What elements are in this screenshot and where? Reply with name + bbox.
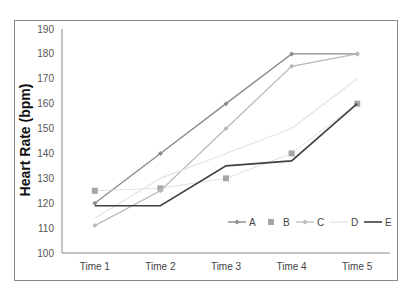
x-tick-label: Time 5 bbox=[342, 261, 373, 272]
x-tick-label: Time 4 bbox=[276, 261, 307, 272]
series-line bbox=[95, 104, 357, 206]
x-tick-label: Time 1 bbox=[80, 261, 111, 272]
diamond-marker-icon bbox=[355, 51, 360, 56]
diamond-marker-icon bbox=[235, 220, 240, 225]
series-line bbox=[95, 79, 357, 218]
legend-item-c: C bbox=[296, 217, 324, 228]
y-tick-label: 190 bbox=[37, 24, 54, 35]
square-marker-icon bbox=[223, 175, 229, 181]
series-d bbox=[95, 79, 357, 218]
square-marker-icon bbox=[268, 219, 274, 225]
legend-label: B bbox=[283, 217, 290, 228]
legend-label: E bbox=[385, 217, 392, 228]
legend-item-b: B bbox=[268, 217, 290, 228]
y-tick-label: 100 bbox=[37, 248, 54, 259]
square-marker-icon bbox=[92, 188, 98, 194]
series-e bbox=[95, 104, 357, 206]
y-tick-label: 140 bbox=[37, 148, 54, 159]
series-line bbox=[95, 54, 357, 226]
legend-item-d: D bbox=[330, 217, 358, 228]
y-tick-label: 120 bbox=[37, 198, 54, 209]
y-tick-label: 170 bbox=[37, 73, 54, 84]
y-tick-label: 110 bbox=[38, 223, 54, 234]
y-tick-label: 150 bbox=[37, 123, 54, 134]
legend-label: A bbox=[249, 217, 256, 228]
y-tick-label: 160 bbox=[37, 98, 54, 109]
series-lines bbox=[92, 51, 360, 228]
legend-label: C bbox=[317, 217, 324, 228]
series-c bbox=[92, 51, 359, 228]
x-axis: Time 1Time 2Time 3Time 4Time 5 bbox=[62, 253, 390, 272]
line-chart: 100110120130140150160170180190 Time 1Tim… bbox=[0, 0, 413, 296]
series-b bbox=[92, 101, 360, 194]
y-tick-label: 130 bbox=[37, 173, 54, 184]
legend-item-a: A bbox=[228, 217, 256, 228]
diamond-marker-icon bbox=[92, 223, 97, 228]
x-tick-label: Time 2 bbox=[145, 261, 176, 272]
legend-label: D bbox=[351, 217, 358, 228]
legend-item-e: E bbox=[364, 217, 392, 228]
y-tick-label: 180 bbox=[37, 48, 54, 59]
legend: ABCDE bbox=[228, 217, 392, 228]
diamond-marker-icon bbox=[303, 220, 308, 225]
y-axis: 100110120130140150160170180190 bbox=[37, 24, 62, 259]
y-axis-label: Heart Rate (bpm) bbox=[17, 84, 33, 197]
square-marker-icon bbox=[289, 150, 295, 156]
x-tick-label: Time 3 bbox=[211, 261, 242, 272]
